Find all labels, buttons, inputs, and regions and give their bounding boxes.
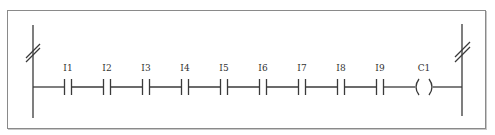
contact-label: I7 [297,63,307,73]
contact-label: I8 [336,63,346,73]
contact-label: I2 [102,63,111,73]
coil-right-arc [429,79,432,95]
coil-label: C1 [418,63,431,73]
coil-left-arc [416,79,419,95]
contact-label: I1 [63,63,72,73]
contact-label: I3 [141,63,151,73]
ladder-diagram: I1I2I3I4I5I6I7I8I9C1 [0,0,495,135]
contact-label: I9 [375,63,385,73]
contact-label: I4 [180,63,190,73]
contact-label: I5 [219,63,229,73]
contact-label: I6 [258,63,268,73]
